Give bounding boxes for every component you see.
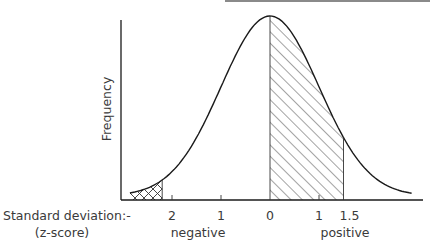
top-rule: [225, 0, 430, 2]
normal-distribution-chart: 21011.5 Frequency Standard deviation:- (…: [0, 0, 430, 248]
x-axis-label: Standard deviation:-: [3, 208, 131, 223]
x-tick-label: 1.5: [340, 208, 360, 223]
x-tick-label: 1: [315, 208, 323, 223]
x-axis-sublabel: (z-score): [35, 225, 89, 240]
x-tick-labels: 21011.5: [168, 208, 359, 223]
x-tick-label: 1: [217, 208, 225, 223]
hatched-region-0-to-1.5: [270, 0, 344, 200]
crosshatched-tail-region: [130, 0, 162, 200]
negative-label: negative: [171, 225, 226, 240]
positive-label: positive: [320, 225, 369, 240]
y-axis-label: Frequency: [99, 76, 114, 141]
x-tick-label: 2: [168, 208, 176, 223]
x-tick-label: 0: [266, 208, 274, 223]
